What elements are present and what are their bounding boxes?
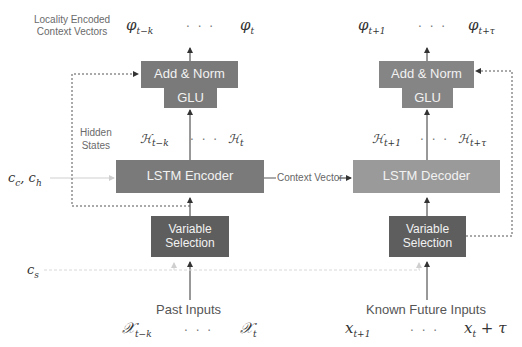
hidden-states-line-2: States	[80, 140, 112, 153]
decoder-add-norm-block: Add & Norm	[379, 61, 474, 88]
title-line-1: Locality Encoded	[34, 14, 110, 26]
input-x-t: 𝒳t	[240, 319, 257, 339]
input-x-t-plus-1: xt+1	[345, 319, 370, 339]
cs-label: cs	[27, 262, 39, 280]
encoder-glu-block: GLU	[164, 88, 217, 108]
hidden-h-t-k: ℋt−k	[140, 132, 169, 148]
output-phi-t-plus-tau: φt+τ	[468, 16, 495, 36]
output-past-ellipsis: · · ·	[186, 20, 215, 34]
decoder-variable-selection-block: Variable Selection	[389, 216, 466, 257]
hidden-states-line-1: Hidden	[80, 127, 112, 140]
hidden-past-ellipsis: · · ·	[190, 133, 219, 147]
vs-line-1: Variable	[406, 223, 449, 237]
output-phi-t: φt	[240, 16, 254, 36]
input-x-t-k: 𝒳t−k	[122, 319, 152, 339]
encoder-variable-selection-block: Variable Selection	[151, 216, 229, 257]
context-vector-label: Context Vector	[277, 172, 343, 183]
hidden-h-t: ℋt	[228, 132, 244, 148]
decoder-glu-block: GLU	[402, 88, 453, 108]
hidden-states-label: Hidden States	[80, 127, 112, 152]
vs-line-2: Selection	[165, 237, 214, 251]
input-future-ellipsis: · · ·	[410, 324, 439, 338]
cc-ch-label: cc, ch	[8, 170, 42, 188]
lstm-encoder-block: LSTM Encoder	[116, 160, 264, 193]
lstm-decoder-block: LSTM Decoder	[353, 160, 500, 193]
hidden-h-t-plus-1: ℋt+1	[372, 132, 401, 148]
hidden-future-ellipsis: · · ·	[420, 133, 449, 147]
context-vectors-title: Locality Encoded Context Vectors	[34, 14, 110, 38]
future-inputs-label: Known Future Inputs	[366, 302, 486, 317]
output-phi-t-k: φt−k	[126, 16, 153, 36]
past-inputs-label: Past Inputs	[156, 302, 221, 317]
input-x-t-plus-tau: xt + τ	[464, 319, 507, 339]
vs-line-2: Selection	[403, 237, 452, 251]
title-line-2: Context Vectors	[34, 26, 110, 38]
decoder-skip-connection	[466, 71, 512, 236]
encoder-add-norm-block: Add & Norm	[141, 61, 238, 88]
output-phi-t-plus-1: φt+1	[358, 16, 385, 36]
output-future-ellipsis: · · ·	[418, 20, 447, 34]
hidden-h-t-plus-tau: ℋt+τ	[458, 132, 486, 148]
input-past-ellipsis: · · ·	[184, 324, 213, 338]
vs-line-1: Variable	[168, 223, 211, 237]
